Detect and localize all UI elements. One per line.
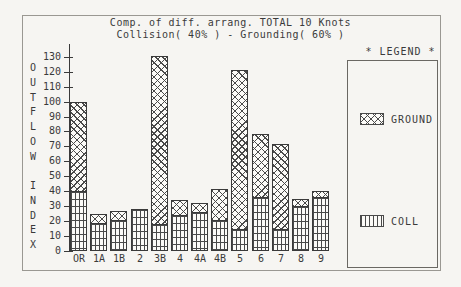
bar-segment-coll	[110, 220, 127, 251]
y-axis-label-char: T	[27, 91, 39, 104]
chart-title: Comp. of diff. arrang. TOTAL 10 Knots	[22, 17, 439, 28]
chart-canvas: Comp. of diff. arrang. TOTAL 10 Knots Co…	[0, 0, 461, 287]
bar-segment-coll	[171, 215, 188, 251]
coll-pattern-swatch	[360, 215, 384, 227]
x-tick-label: 4A	[189, 253, 211, 264]
y-axis-label-char: E	[27, 223, 39, 236]
x-tick-label: 3B	[149, 253, 171, 264]
bar-segment-ground	[292, 199, 309, 207]
x-tick-label: 5	[229, 253, 251, 264]
bar-segment-ground	[171, 200, 188, 216]
bar-segment-coll	[312, 197, 329, 251]
bar-segment-coll	[231, 229, 248, 251]
bar-segment-coll	[90, 223, 107, 251]
bar-segment-coll	[191, 212, 208, 251]
y-axis-label-char: O	[27, 135, 39, 148]
bar-segment-coll	[292, 206, 309, 251]
bar-segment-ground	[231, 70, 248, 230]
y-axis-label-char: X	[27, 238, 39, 251]
x-tick-label: 9	[310, 253, 332, 264]
x-tick-label: 1A	[88, 253, 110, 264]
bar-segment-ground	[70, 102, 87, 192]
bar-segment-coll	[211, 220, 228, 251]
bar-segment-coll	[70, 191, 87, 251]
legend: GROUND COLL	[347, 60, 438, 268]
x-tick-label: 2	[129, 253, 151, 264]
y-tick	[64, 57, 73, 58]
y-axis-label-char: F	[27, 105, 39, 118]
x-tick-label: 4B	[209, 253, 231, 264]
x-tick-label: 8	[290, 253, 312, 264]
bar-segment-coll	[272, 229, 289, 251]
y-axis-label-char: N	[27, 194, 39, 207]
bar-segment-ground	[312, 191, 329, 198]
x-tick-label: 6	[250, 253, 272, 264]
y-axis-label-char: L	[27, 120, 39, 133]
bar-segment-ground	[151, 56, 168, 225]
x-tick-label: 7	[270, 253, 292, 264]
ground-pattern-swatch	[360, 113, 384, 125]
y-axis-label-char: W	[27, 150, 39, 163]
bar-segment-ground	[211, 189, 228, 221]
bar-segment-ground	[272, 144, 289, 230]
legend-header: * LEGEND *	[356, 46, 445, 57]
y-axis-label-char: O	[27, 61, 39, 74]
bar-segment-ground	[90, 214, 107, 224]
x-tick-label: OR	[68, 253, 90, 264]
x-tick-label: 4	[169, 253, 191, 264]
legend-label-ground: GROUND	[391, 114, 433, 125]
y-tick	[64, 87, 73, 88]
y-tick	[64, 72, 73, 73]
bar-segment-coll	[252, 197, 269, 251]
chart-subtitle: Collision( 40% ) - Grounding( 60% )	[22, 29, 439, 40]
y-axis-label-char: D	[27, 209, 39, 222]
legend-label-coll: COLL	[391, 216, 419, 227]
bar-segment-ground	[252, 134, 269, 198]
y-tick	[64, 251, 73, 252]
bar-segment-coll	[131, 209, 148, 251]
bar-segment-coll	[151, 224, 168, 251]
bar-segment-ground	[110, 211, 127, 221]
y-axis-label-char: I	[27, 179, 39, 192]
y-axis-label-char: U	[27, 76, 39, 89]
x-tick-label: 1B	[108, 253, 130, 264]
bar-segment-ground	[191, 203, 208, 213]
